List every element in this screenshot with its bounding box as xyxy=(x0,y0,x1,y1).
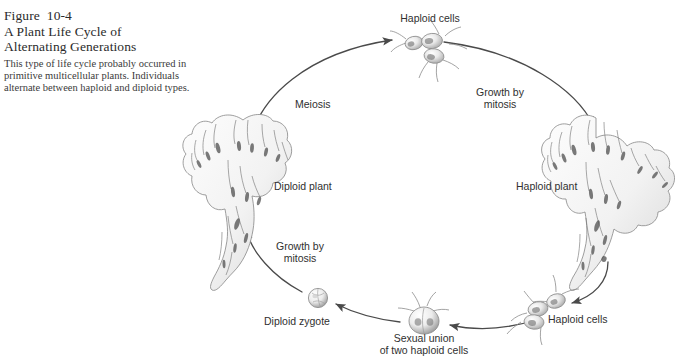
plant-life-cycle-diagram: Haploid cells Growth by mitosis Meiosis … xyxy=(0,0,691,360)
label-growth-by-mitosis-right-line2: mitosis xyxy=(455,98,545,111)
label-diploid-zygote: Diploid zygote xyxy=(264,315,364,328)
sexual-union-illustration xyxy=(398,292,449,334)
haploid-cells-top-illustration xyxy=(390,20,467,82)
label-growth-by-mitosis-left-line2: mitosis xyxy=(240,252,360,265)
label-diploid-plant: Diploid plant xyxy=(274,180,364,193)
label-haploid-plant: Haploid plant xyxy=(516,180,608,193)
label-sexual-union-line2: of two haploid cells xyxy=(354,344,494,357)
arrow-sexual-union xyxy=(450,320,536,329)
arrow-growth-mitosis-right xyxy=(444,42,594,126)
diploid-zygote-illustration xyxy=(308,288,327,307)
label-haploid-cells-top: Haploid cells xyxy=(374,12,486,25)
label-meiosis: Meiosis xyxy=(295,98,365,111)
fused-cell xyxy=(409,307,439,334)
label-haploid-cells-bottom: Haploid cells xyxy=(548,313,648,326)
label-growth-by-mitosis-right-line1: Growth by xyxy=(455,86,545,99)
haploid-cells-bottom-illustration xyxy=(507,275,579,345)
label-growth-by-mitosis-left-line1: Growth by xyxy=(240,240,360,253)
figure-page: Figure 10-4 A Plant Life Cycle of Altern… xyxy=(0,0,691,360)
label-sexual-union-line1: Sexual union xyxy=(364,332,484,345)
